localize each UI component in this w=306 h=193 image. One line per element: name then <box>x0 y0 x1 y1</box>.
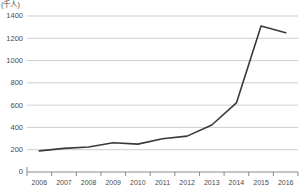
x-axis-tick-labels: 2006200720082009201020112012201320142015… <box>32 179 294 186</box>
x-axis <box>27 167 298 176</box>
x-axis-tick-label: 2006 <box>32 179 48 186</box>
y-axis-tick-label: 400 <box>10 123 23 132</box>
y-axis-tick-label: 200 <box>10 145 23 154</box>
line-chart: (千人) 0200400600800100012001400 200620072… <box>0 0 306 193</box>
x-axis-tick-label: 2013 <box>204 179 220 186</box>
x-axis-tick-label: 2016 <box>278 179 294 186</box>
y-axis-tick-label: 1000 <box>6 56 23 65</box>
y-axis-tick-label: 800 <box>10 78 23 87</box>
x-axis-tick-label: 2010 <box>130 179 146 186</box>
y-axis-tick-labels: 0200400600800100012001400 <box>6 11 23 176</box>
x-axis-tick-label: 2015 <box>253 179 269 186</box>
y-axis-tick-label: 1400 <box>6 11 23 20</box>
x-axis-tick-label: 2012 <box>179 179 195 186</box>
plot-area: 0200400600800100012001400 20062007200820… <box>0 0 306 193</box>
x-axis-tick-label: 2009 <box>105 179 121 186</box>
data-series <box>39 26 285 151</box>
x-axis-tick-label: 2007 <box>56 179 72 186</box>
x-axis-tick-label: 2014 <box>229 179 245 186</box>
y-axis-tick-label: 1200 <box>6 34 23 43</box>
y-axis-tick-label: 600 <box>10 101 23 110</box>
chart-canvas: 0200400600800100012001400 20062007200820… <box>0 0 306 193</box>
x-axis-tick-label: 2011 <box>155 179 170 186</box>
y-axis-tick-label: 0 <box>19 167 23 176</box>
x-axis-tick-label: 2008 <box>81 179 97 186</box>
series-line <box>39 26 285 151</box>
